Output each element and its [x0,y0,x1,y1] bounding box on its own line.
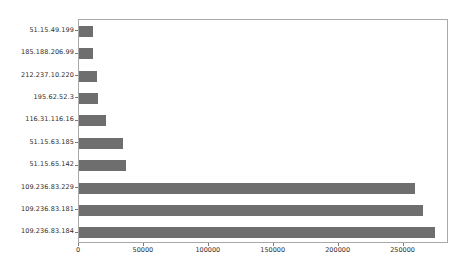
y-axis-tick-label: 185.188.206.99 [21,49,74,56]
x-axis-tick-mark [78,243,79,246]
x-axis-tick-labels: 050000100000150000200000250000 [0,246,466,260]
x-axis-tick-mark [273,243,274,246]
y-axis-tick-mark [75,187,78,188]
bar [79,71,97,82]
plot-area [78,19,448,243]
x-axis-tick-mark [208,243,209,246]
x-axis-tick-label: 0 [76,246,80,254]
y-axis-tick-mark [75,97,78,98]
x-axis-tick-label: 50000 [133,246,154,254]
bar [79,26,93,37]
bar [79,48,93,59]
y-axis-tick-label: 51.15.63.185 [29,139,74,146]
x-axis-tick-label: 200000 [325,246,350,254]
y-axis-tick-label: 195.62.52.3 [34,94,74,101]
y-axis-tick-label: 116.31.116.16 [25,116,74,123]
y-axis-tick-label: 51.15.49.199 [29,27,74,34]
bar [79,115,106,126]
bar [79,227,435,238]
y-axis-tick-label: 212.237.10.220 [21,72,74,79]
bar [79,183,415,194]
y-axis-tick-labels: 51.15.49.199185.188.206.99212.237.10.220… [0,19,74,243]
y-axis-tick-mark [75,53,78,54]
x-axis-tick-mark [143,243,144,246]
y-axis-tick-mark [75,120,78,121]
x-axis-tick-mark [403,243,404,246]
y-axis-tick-label: 51.15.65.142 [29,161,74,168]
y-axis-tick-mark [75,30,78,31]
bar [79,205,423,216]
y-axis-tick-label: 109.236.83.229 [21,184,74,191]
x-axis-tick-label: 150000 [260,246,285,254]
y-axis-tick-label: 109.236.83.184 [21,228,74,235]
x-axis-tick-label: 100000 [195,246,220,254]
y-axis-tick-label: 109.236.83.181 [21,206,74,213]
y-axis-tick-mark [75,142,78,143]
bar [79,93,98,104]
x-axis-tick-mark [338,243,339,246]
bars-container [79,20,447,242]
y-axis-tick-mark [75,232,78,233]
y-axis-tick-mark [75,75,78,76]
bar [79,138,123,149]
bar-chart-figure: 51.15.49.199185.188.206.99212.237.10.220… [0,0,466,272]
bar [79,160,126,171]
y-axis-tick-mark [75,209,78,210]
x-axis-tick-label: 250000 [390,246,415,254]
y-axis-tick-mark [75,165,78,166]
